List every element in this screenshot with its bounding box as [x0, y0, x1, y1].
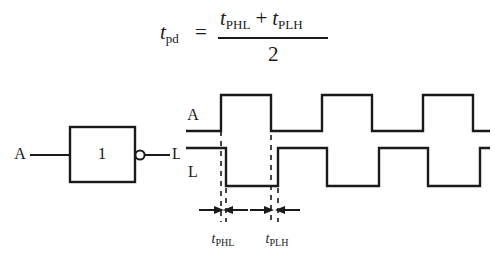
timing-diagram: A L tPHL [0, 0, 495, 263]
waveform-label-a: A [187, 106, 199, 123]
waveform-output-l [186, 148, 490, 186]
label-tphl-subscript: PHL [215, 237, 234, 248]
measure-arrows-phl [199, 206, 248, 214]
measure-arrows-plh [250, 206, 300, 214]
waveform-label-l: L [188, 163, 198, 180]
label-tplh-subscript: PLH [269, 237, 288, 248]
label-tphl: tPHL [212, 231, 235, 248]
waveform-input-a [186, 95, 490, 131]
propagation-delay-figure: tpd = tPHL+tPLH 2 1 A L A L [0, 0, 495, 263]
label-tplh: tPLH [266, 231, 289, 248]
